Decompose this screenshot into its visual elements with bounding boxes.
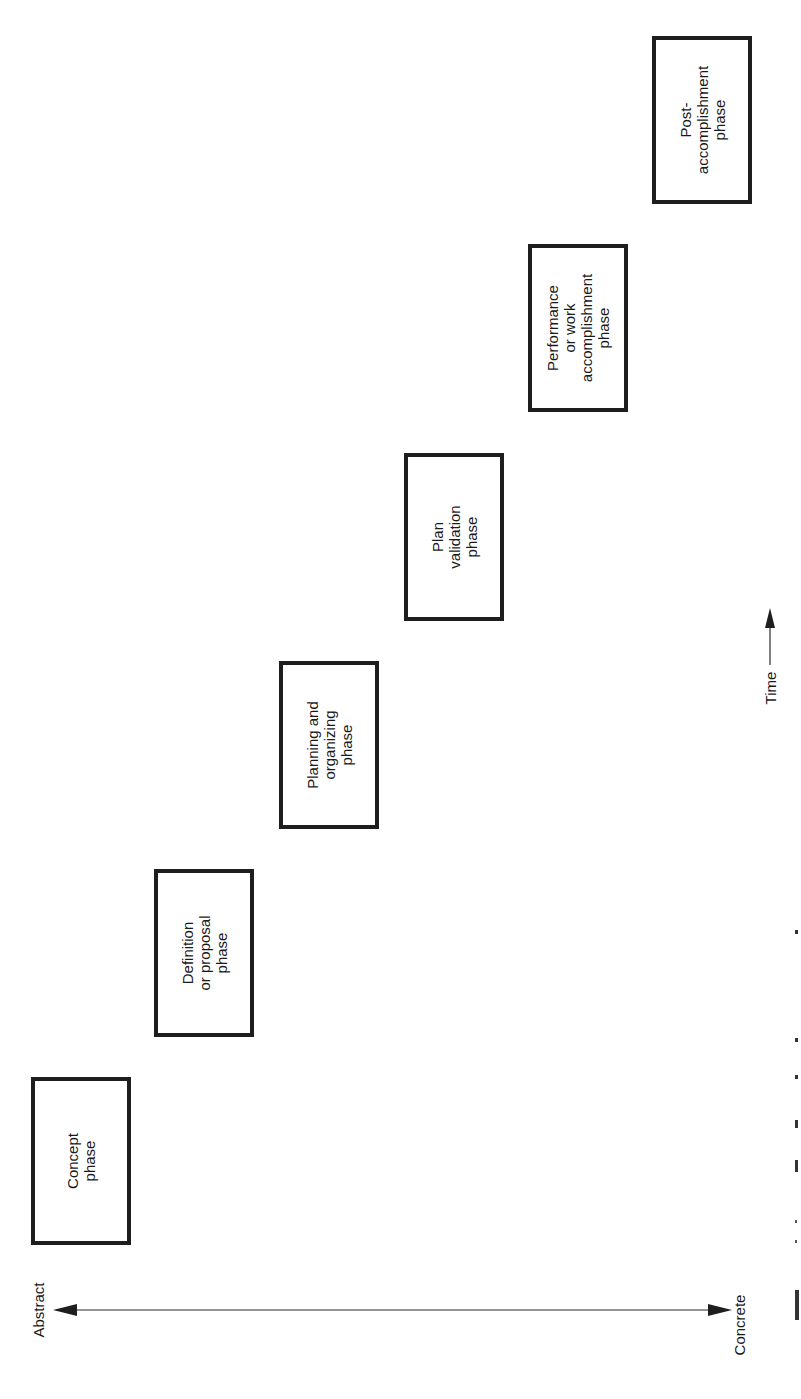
abstract-concrete-axis xyxy=(0,0,801,1399)
arrow-left-icon xyxy=(53,1304,77,1316)
time-label: Time xyxy=(762,672,779,705)
concrete-label: Concrete xyxy=(731,1295,748,1356)
caption-fragment xyxy=(795,930,801,1330)
arrow-right-icon xyxy=(708,1304,732,1316)
time-arrow-icon xyxy=(765,608,775,628)
abstract-label: Abstract xyxy=(30,1282,47,1337)
